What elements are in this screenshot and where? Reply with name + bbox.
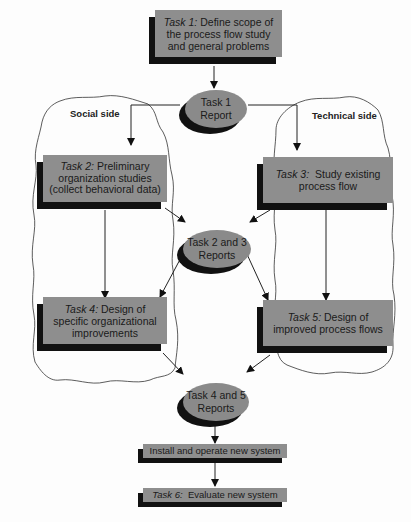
social-side-label: Social side	[70, 108, 120, 119]
task-5-prefix: Task 5:	[288, 311, 321, 323]
task-3-prefix: Task 3:	[276, 168, 309, 180]
task-4-5-report-node: Task 4 and 5Reports	[183, 383, 249, 421]
task-3-box: Task 3: Study existing process flow	[263, 157, 393, 203]
report-1-line1: Task 1	[200, 96, 232, 109]
task-1-box: Task 1: Define scope of the process flow…	[155, 10, 282, 57]
task-4-prefix: Task 4:	[65, 303, 98, 315]
task-6-prefix: Task 6:	[152, 489, 182, 500]
report-45-line2: Reports	[186, 402, 246, 415]
task-1-report-node: Task 1Report	[185, 90, 247, 128]
task-5-box: Task 5: Design of improved process flows	[263, 300, 393, 346]
install-text: Install and operate new system	[150, 445, 281, 457]
technical-side-label: Technical side	[312, 110, 377, 121]
task-6-text: Evaluate new system	[188, 489, 278, 500]
report-45-line1: Task 4 and 5	[186, 389, 246, 402]
flow-diagram: Social side Technical side Task 1: Defin…	[0, 0, 411, 522]
report-23-line1: Task 2 and 3	[187, 236, 247, 249]
install-box: Install and operate new system	[143, 444, 287, 458]
task-6-box: Task 6: Evaluate new system	[143, 488, 287, 502]
task-2-3-report-node: Task 2 and 3Reports	[183, 230, 251, 268]
task-2-box: Task 2: Preliminary organization studies…	[43, 155, 167, 202]
report-23-line2: Reports	[187, 249, 247, 262]
task-4-box: Task 4: Design of specific organizationa…	[43, 297, 167, 344]
task-1-prefix: Task 1:	[164, 16, 197, 28]
task-2-prefix: Task 2:	[61, 160, 94, 172]
report-1-line2: Report	[200, 109, 232, 122]
task-3-text: Study existing process flow	[299, 168, 381, 192]
